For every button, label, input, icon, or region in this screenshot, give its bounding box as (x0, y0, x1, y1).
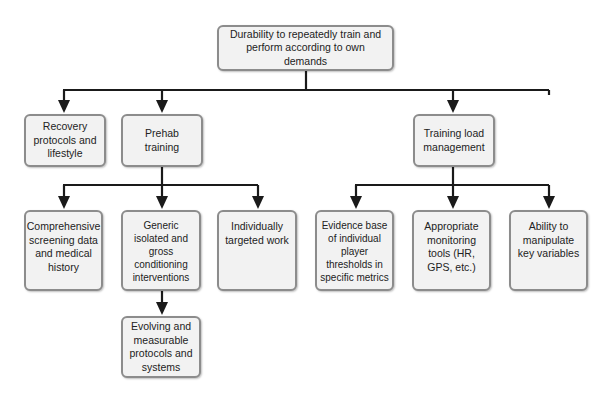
node-label: Durability to repeatedly train and perfo… (225, 28, 386, 69)
arrow-down-icon (252, 196, 264, 209)
node-durability: Durability to repeatedly train and perfo… (217, 25, 394, 71)
node-evidence: Evidence base of individual player thres… (315, 210, 394, 291)
arrow-down-icon (543, 196, 555, 209)
arrow-down-icon (447, 196, 459, 209)
node-label: Generic isolated and gross conditioning … (125, 219, 197, 284)
node-label: Evolving and measurable protocols and sy… (126, 320, 196, 374)
arrow-down-icon (156, 302, 168, 315)
arrow-down-icon (58, 100, 70, 113)
arrow-down-icon (156, 100, 168, 113)
node-label: Ability to manipulate key variables (514, 220, 583, 261)
arrow-down-icon (156, 196, 168, 209)
node-label: Prehab training (139, 127, 185, 154)
node-evolving: Evolving and measurable protocols and sy… (121, 316, 201, 378)
node-screening: Comprehensive screening data and medical… (24, 210, 103, 291)
node-recovery: Recovery protocols and lifestyle (24, 114, 106, 167)
node-label: Comprehensive screening data and medical… (27, 220, 101, 274)
arrow-down-icon (350, 196, 362, 209)
node-prehab: Prehab training (121, 114, 203, 167)
node-label: Evidence base of individual player thres… (318, 219, 391, 284)
node-label: Appropriate monitoring tools (HR, GPS, e… (417, 220, 486, 274)
node-monitoring: Appropriate monitoring tools (HR, GPS, e… (412, 210, 491, 291)
node-manipulate: Ability to manipulate key variables (509, 210, 588, 291)
arrow-down-icon (447, 100, 459, 113)
node-generic: Generic isolated and gross conditioning … (121, 210, 201, 291)
node-label: Recovery protocols and lifestyle (29, 120, 101, 161)
node-label: Training load management (418, 127, 490, 154)
arrow-down-icon (58, 196, 70, 209)
node-label: Individually targeted work (223, 220, 291, 247)
node-training-load: Training load management (413, 114, 495, 167)
node-individual: Individually targeted work (217, 210, 297, 291)
